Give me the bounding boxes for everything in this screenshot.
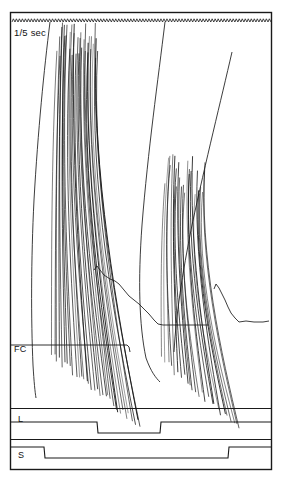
l-channel-label: L xyxy=(18,415,23,424)
trace-canvas xyxy=(0,0,281,485)
timebase-label: 1/5 sec xyxy=(14,28,46,38)
fc-label: FC xyxy=(14,345,26,354)
s-channel-label: S xyxy=(18,451,24,460)
oscillograph-figure: 1/5 sec FC L S xyxy=(0,0,281,485)
